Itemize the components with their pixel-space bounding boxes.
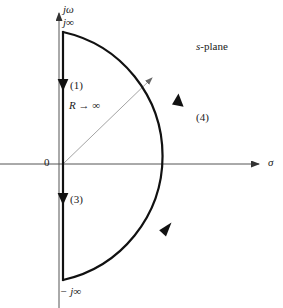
s-plane-title-rest: -plane (200, 40, 227, 52)
imaginary-axis-label: jω (63, 4, 74, 15)
contour-diagram-canvas (0, 0, 283, 308)
origin-label: 0 (44, 157, 50, 168)
direction-arrow-arc-lower-icon (159, 223, 171, 237)
radius-limit-text: → ∞ (76, 99, 100, 111)
contour-infinite-semicircle (63, 32, 163, 280)
s-plane-title: s-plane (196, 41, 228, 52)
real-axis-label: σ (268, 157, 273, 168)
lower-limit-label: − j∞ (60, 286, 81, 297)
radius-label: R → ∞ (69, 100, 100, 111)
segment-1-label: (1) (70, 80, 83, 91)
direction-arrow-arc-upper-icon (172, 94, 184, 107)
segment-4-label: (4) (196, 112, 209, 123)
segment-3-label: (3) (70, 194, 83, 205)
nyquist-contour-figure: jω j∞ − j∞ σ 0 s-plane (1) (3) (4) R → ∞ (0, 0, 283, 308)
radius-symbol: R (69, 99, 76, 111)
upper-limit-label: j∞ (63, 17, 74, 28)
